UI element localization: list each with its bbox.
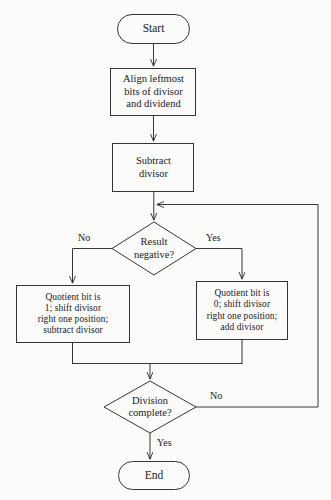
division-complete-decision-node[interactable] [104,381,196,433]
align-process-node[interactable] [110,68,196,116]
quotient-zero-process-node[interactable] [196,281,288,340]
flowchart-canvas: Start Align leftmost bits of divisor and… [0,0,331,500]
end-terminal[interactable] [118,461,190,490]
subtract-process-node[interactable] [112,143,194,192]
edge-negative-no [73,249,113,284]
start-terminal[interactable] [117,14,190,44]
result-negative-decision-node[interactable] [112,222,196,275]
edge-negative-yes [196,249,242,280]
quotient-one-process-node[interactable] [16,285,130,343]
